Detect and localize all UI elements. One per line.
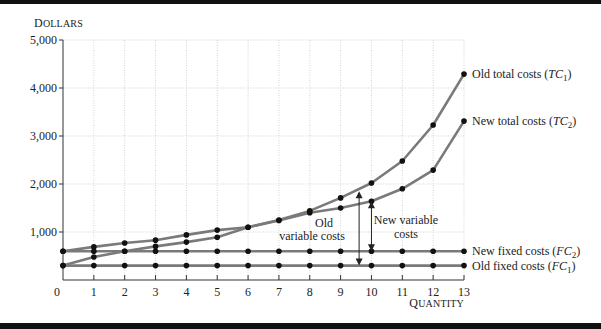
- x-tick-label: 12: [427, 285, 439, 299]
- data-point: [214, 248, 220, 254]
- x-tick-label: 1: [91, 285, 97, 299]
- y-axis-label: DOLLARS: [34, 16, 83, 30]
- data-point: [184, 263, 190, 269]
- data-point: [122, 248, 128, 254]
- data-point: [400, 186, 406, 192]
- data-point: [338, 248, 344, 254]
- data-point: [430, 167, 436, 173]
- x-tick-label: 6: [245, 285, 251, 299]
- x-tick-label: 11: [397, 285, 409, 299]
- data-point: [338, 263, 344, 269]
- x-tick-label: 3: [153, 285, 159, 299]
- data-point: [91, 248, 97, 254]
- data-point: [153, 263, 159, 269]
- x-tick-label: 5: [214, 285, 220, 299]
- axes: 1,0002,0003,0004,0005,000012345678910111…: [30, 33, 470, 299]
- data-point: [369, 263, 375, 269]
- series-label: Old fixed costs (FC1): [472, 259, 576, 275]
- data-point: [307, 263, 313, 269]
- data-point: [184, 248, 190, 254]
- data-point: [245, 263, 251, 269]
- data-point: [60, 248, 66, 254]
- data-point: [153, 237, 159, 243]
- data-point: [184, 239, 190, 245]
- old-variable-costs-label: Old: [315, 216, 333, 230]
- x-tick-label: 9: [338, 285, 344, 299]
- new-variable-costs-label: New variable: [374, 213, 438, 227]
- data-point: [400, 158, 406, 164]
- data-point: [184, 232, 190, 238]
- data-point: [214, 263, 220, 269]
- y-tick-label: 5,000: [30, 33, 57, 47]
- x-tick-label: 2: [122, 285, 128, 299]
- y-tick-label: 3,000: [30, 129, 57, 143]
- data-point: [245, 248, 251, 254]
- data-point: [307, 210, 313, 216]
- x-tick-label: 10: [365, 285, 377, 299]
- y-tick-label: 1,000: [30, 225, 57, 239]
- annotations: Oldvariable costsNew variablecosts: [279, 191, 438, 265]
- data-point: [400, 248, 406, 254]
- data-point: [461, 71, 467, 77]
- series-labels: Old total costs (TC1)New total costs (TC…: [472, 67, 580, 275]
- data-point: [122, 263, 128, 269]
- x-tick-label: 13: [458, 285, 470, 299]
- old-variable-costs-label: variable costs: [279, 229, 345, 243]
- data-point: [153, 244, 159, 250]
- data-point: [276, 248, 282, 254]
- data-point: [91, 254, 97, 260]
- data-point: [307, 248, 313, 254]
- data-point: [430, 248, 436, 254]
- data-point: [400, 263, 406, 269]
- data-point: [461, 248, 467, 254]
- y-tick-label: 4,000: [30, 81, 57, 95]
- data-point: [122, 240, 128, 246]
- data-point: [430, 263, 436, 269]
- y-tick-label: 2,000: [30, 177, 57, 191]
- data-point: [214, 234, 220, 240]
- x-tick-label: 7: [276, 285, 282, 299]
- data-point: [214, 227, 220, 233]
- series-label: New total costs (TC2): [472, 114, 576, 130]
- data-point: [461, 263, 467, 269]
- data-point: [461, 118, 467, 124]
- x-tick-label: 8: [307, 285, 313, 299]
- data-point: [276, 263, 282, 269]
- x-tick-label: 0: [54, 285, 60, 299]
- data-point: [276, 218, 282, 224]
- series-label: Old total costs (TC1): [472, 67, 572, 83]
- data-point: [369, 180, 375, 186]
- new-variable-costs-label: costs: [394, 227, 418, 241]
- arrow-head-up-icon: [356, 191, 363, 198]
- cost-chart: 1,0002,0003,0004,0005,000012345678910111…: [0, 0, 601, 329]
- data-point: [338, 195, 344, 201]
- x-tick-label: 4: [183, 285, 189, 299]
- data-point: [60, 263, 66, 269]
- data-point: [153, 248, 159, 254]
- data-point: [91, 263, 97, 269]
- x-axis-label: QUANTITY: [409, 296, 464, 310]
- data-point: [245, 224, 251, 230]
- data-point: [430, 122, 436, 128]
- data-point: [338, 205, 344, 211]
